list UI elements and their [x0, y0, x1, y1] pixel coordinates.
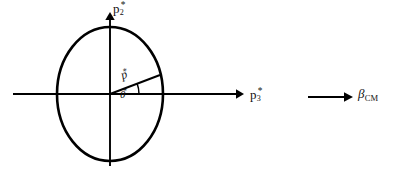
- vertical-axis-label-base: p: [113, 1, 120, 16]
- scattering-angle-arc: [137, 84, 139, 94]
- vertical-axis-label-superscript: *: [121, 0, 126, 10]
- boost-velocity-arrowhead: [344, 92, 353, 102]
- horizontal-axis-arrowhead: [236, 89, 244, 99]
- boost-velocity-label-subscript: CM: [365, 93, 378, 103]
- scattering-angle-label-superscript: *: [123, 87, 127, 96]
- horizontal-axis-label-base: p: [250, 87, 257, 102]
- boost-velocity-label: βCM: [358, 87, 378, 100]
- scattering-angle-label: θ*: [120, 89, 129, 100]
- momentum-vector-line: [110, 75, 160, 94]
- boost-velocity-label-base: β: [358, 86, 364, 101]
- vertical-axis-label: p2*: [113, 2, 128, 15]
- momentum-diagram-figure: p2* p3* p* θ* βCM: [0, 0, 401, 174]
- horizontal-axis-label-superscript: *: [258, 86, 263, 96]
- horizontal-axis-label: p3*: [250, 88, 265, 101]
- diagram-canvas: [0, 0, 401, 174]
